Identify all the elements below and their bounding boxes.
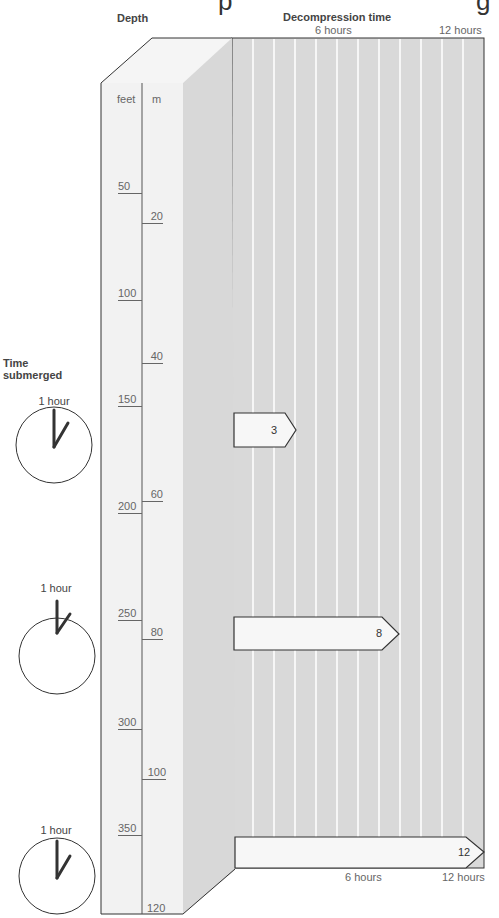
feet-tick-250: 250 [118, 607, 142, 621]
bar-12 [235, 837, 484, 868]
feet-tick-200: 200 [118, 500, 142, 514]
clock-icon-3 [19, 838, 95, 914]
feet-tick-50: 50 [118, 180, 142, 194]
column-side [183, 38, 235, 914]
m-tick-40: 40 [142, 350, 163, 364]
chart-graphics [0, 0, 499, 918]
bottom-6h-label: 6 hours [345, 871, 382, 883]
decompression-header: Decompression time [283, 11, 391, 23]
bar-8 [234, 617, 399, 650]
clock-label-2: 1 hour [16, 582, 96, 594]
feet-tick-150: 150 [118, 393, 142, 407]
clock-icon-1 [16, 407, 92, 483]
clock-label-1: 1 hour [14, 395, 94, 407]
top-12h-label: 12 hours [439, 24, 482, 36]
bar-value-3: 3 [271, 424, 277, 436]
m-tick-100: 100 [142, 766, 166, 780]
bar-value-12: 12 [458, 846, 470, 858]
bar-value-8: 8 [376, 627, 382, 639]
feet-tick-300: 300 [118, 716, 142, 730]
clock-label-3: 1 hour [16, 824, 96, 836]
m-tick-120: 120 [147, 902, 165, 914]
m-unit-label: m [152, 93, 161, 105]
bar-3 [234, 413, 296, 447]
top-6h-label: 6 hours [315, 24, 352, 36]
feet-tick-100: 100 [118, 287, 142, 301]
time-submerged-header: Time submerged [3, 357, 62, 381]
m-tick-60: 60 [142, 488, 163, 502]
bottom-12h-label: 12 hours [442, 871, 485, 883]
feet-tick-350: 350 [118, 822, 142, 836]
depth-header: Depth [117, 12, 148, 24]
m-tick-80: 80 [142, 626, 163, 640]
time-submerged-line2: submerged [3, 369, 62, 381]
clock-icon-2 [19, 601, 95, 694]
m-tick-20: 20 [142, 210, 163, 224]
feet-unit-label: feet [117, 93, 135, 105]
time-submerged-line1: Time [3, 357, 62, 369]
